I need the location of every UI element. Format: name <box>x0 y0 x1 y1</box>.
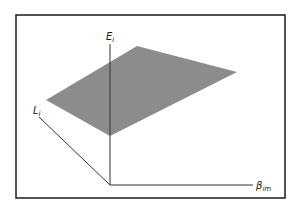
shaded-plane <box>46 46 237 136</box>
depth-axis-label: Li <box>33 105 41 118</box>
vertical-axis-label: Ei <box>106 31 114 44</box>
depth-axis-subscript: i <box>39 110 41 118</box>
vertical-axis-subscript: i <box>112 36 114 44</box>
horizontal-axis-subscript: im <box>262 185 271 193</box>
horizontal-axis-label: βim <box>255 180 271 193</box>
axes-plane-diagram: Ei Li βim <box>0 0 300 209</box>
